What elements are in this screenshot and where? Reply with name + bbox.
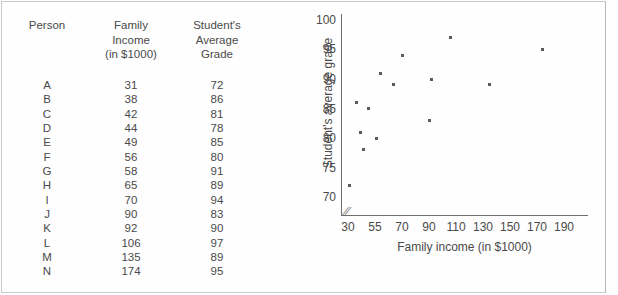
table-cell-person: E <box>0 135 88 149</box>
data-point-I <box>401 54 404 57</box>
table-cell-grade: 90 <box>174 221 260 235</box>
table-row: N17495 <box>0 264 300 278</box>
table-cell-person: N <box>0 264 88 278</box>
table-cell-grade: 85 <box>174 135 260 149</box>
table-row: H6589 <box>0 178 300 192</box>
figure-root: Person Family Income (in $1000) Student'… <box>0 0 618 295</box>
data-point-N <box>541 48 544 51</box>
table-cell-income: 58 <box>88 164 174 178</box>
table-row: G5891 <box>0 164 300 178</box>
x-tick-30: 30 <box>333 221 363 233</box>
table-row: K9290 <box>0 221 300 235</box>
data-point-H <box>392 83 395 86</box>
table-cell-grade: 81 <box>174 107 260 121</box>
table-header-row: Person Family Income (in $1000) Student'… <box>0 18 300 62</box>
data-point-D <box>362 148 365 151</box>
data-point-K <box>430 78 433 81</box>
data-point-E <box>367 107 370 110</box>
table-cell-person: H <box>0 178 88 192</box>
table-cell-person: D <box>0 121 88 135</box>
column-header-student-average-grade: Student's Average Grade <box>174 18 260 62</box>
x-tick-190: 190 <box>549 221 579 233</box>
table-row: J9083 <box>0 207 300 221</box>
data-point-F <box>375 137 378 140</box>
table-cell-person: G <box>0 164 88 178</box>
table-cell-person: F <box>0 150 88 164</box>
table-cell-person: C <box>0 107 88 121</box>
table-cell-grade: 89 <box>174 250 260 264</box>
table-cell-grade: 83 <box>174 207 260 221</box>
x-tick-55: 55 <box>360 221 390 233</box>
y-axis-title: Student's average grade <box>321 13 335 193</box>
table-row: M13589 <box>0 250 300 264</box>
table-cell-income: 135 <box>88 250 174 264</box>
table-cell-grade: 72 <box>174 78 260 92</box>
table-cell-income: 31 <box>88 78 174 92</box>
table-cell-person: L <box>0 236 88 250</box>
table-cell-income: 42 <box>88 107 174 121</box>
data-table: Person Family Income (in $1000) Student'… <box>0 0 300 295</box>
table-cell-grade: 89 <box>174 178 260 192</box>
table-cell-income: 56 <box>88 150 174 164</box>
table-cell-grade: 94 <box>174 193 260 207</box>
data-point-B <box>355 101 358 104</box>
table-row: F5680 <box>0 150 300 164</box>
column-header-family-income: Family Income (in $1000) <box>88 18 174 62</box>
table-row: C4281 <box>0 107 300 121</box>
table-cell-income: 44 <box>88 121 174 135</box>
column-header-person: Person <box>0 18 88 62</box>
x-tick-90: 90 <box>414 221 444 233</box>
y-tick-70: 70 <box>310 191 336 203</box>
table-cell-grade: 95 <box>174 264 260 278</box>
table-cell-income: 92 <box>88 221 174 235</box>
scatter-chart: // 707580859095100 305570901101301501701… <box>300 0 618 295</box>
table-cell-income: 65 <box>88 178 174 192</box>
table-cell-person: M <box>0 250 88 264</box>
table-row: L10697 <box>0 236 300 250</box>
x-tick-130: 130 <box>468 221 498 233</box>
table-row: E4985 <box>0 135 300 149</box>
table-cell-person: K <box>0 221 88 235</box>
data-point-L <box>449 36 452 39</box>
table-cell-grade: 97 <box>174 236 260 250</box>
table-cell-income: 70 <box>88 193 174 207</box>
table-cell-person: J <box>0 207 88 221</box>
x-tick-170: 170 <box>522 221 552 233</box>
table-cell-grade: 86 <box>174 92 260 106</box>
x-axis-title: Family income (in $1000) <box>341 240 588 254</box>
x-tick-150: 150 <box>495 221 525 233</box>
y-axis-line <box>341 14 342 216</box>
data-point-C <box>359 131 362 134</box>
table-cell-grade: 91 <box>174 164 260 178</box>
table-cell-person: I <box>0 193 88 207</box>
data-point-M <box>488 83 491 86</box>
data-point-G <box>379 72 382 75</box>
table-row: B3886 <box>0 92 300 106</box>
x-axis-line <box>341 215 588 216</box>
table-body: A3172B3886C4281D4478E4985F5680G5891H6589… <box>0 78 300 279</box>
table-cell-grade: 78 <box>174 121 260 135</box>
x-tick-110: 110 <box>441 221 471 233</box>
table-row: I7094 <box>0 193 300 207</box>
table-cell-income: 174 <box>88 264 174 278</box>
table-cell-income: 38 <box>88 92 174 106</box>
table-row: A3172 <box>0 78 300 92</box>
table-cell-income: 49 <box>88 135 174 149</box>
data-point-A <box>348 184 351 187</box>
data-point-J <box>428 119 431 122</box>
table-cell-person: B <box>0 92 88 106</box>
x-tick-70: 70 <box>387 221 417 233</box>
table-cell-income: 106 <box>88 236 174 250</box>
table-row: D4478 <box>0 121 300 135</box>
table-cell-income: 90 <box>88 207 174 221</box>
table-cell-person: A <box>0 78 88 92</box>
table-cell-grade: 80 <box>174 150 260 164</box>
